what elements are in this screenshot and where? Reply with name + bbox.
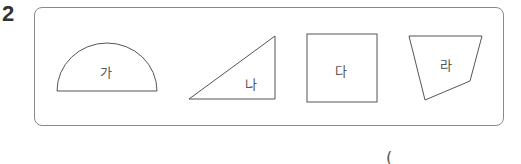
shape-label-da: 다 — [335, 61, 347, 80]
shapes-canvas — [0, 0, 521, 164]
shape-label-ga: 가 — [100, 62, 112, 81]
shape-label-na: 나 — [245, 74, 257, 93]
shape-right-triangle — [189, 36, 275, 99]
answer-paren: ( — [386, 148, 392, 164]
shape-label-ra: 라 — [440, 55, 452, 74]
